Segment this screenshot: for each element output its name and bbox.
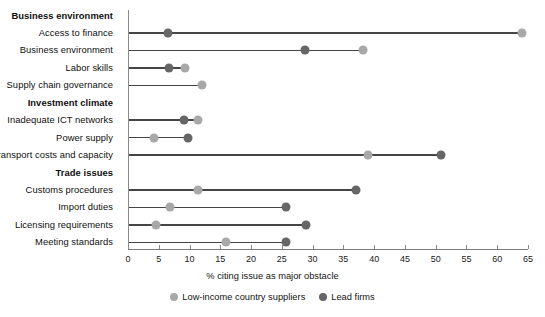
y-axis-line xyxy=(128,10,129,249)
x-axis-tick-label: 0 xyxy=(125,254,130,264)
legend-label-lead-firms: Lead firms xyxy=(331,292,374,302)
x-axis-tick-label: 45 xyxy=(400,254,410,264)
data-point-suppliers xyxy=(193,186,202,195)
x-axis-tick xyxy=(436,245,437,249)
dumbbell-connector xyxy=(128,67,185,69)
data-point-suppliers xyxy=(222,238,231,247)
x-axis-tick xyxy=(282,245,283,249)
x-axis-tick-label: 10 xyxy=(185,254,195,264)
chart-legend: Low-income country suppliers Lead firms xyxy=(0,292,545,302)
data-point-suppliers xyxy=(151,220,160,229)
x-axis-tick-label: 15 xyxy=(215,254,225,264)
x-axis-tick-label: 30 xyxy=(308,254,318,264)
x-axis-tick xyxy=(466,245,467,249)
x-axis-tick xyxy=(374,245,375,249)
x-axis-tick xyxy=(190,245,191,249)
dumbbell-chart: Business environmentAccess to financeBus… xyxy=(0,0,545,317)
x-axis-tick-label: 35 xyxy=(338,254,348,264)
x-axis-tick xyxy=(128,245,129,249)
x-axis-tick xyxy=(220,245,221,249)
legend-dot-icon-suppliers xyxy=(170,293,178,301)
x-axis-title: % citing issue as major obstacle xyxy=(0,271,545,281)
legend-item-suppliers: Low-income country suppliers xyxy=(170,292,305,302)
dumbbell-connector xyxy=(128,85,202,87)
dumbbell-connector xyxy=(128,189,356,191)
data-point-suppliers xyxy=(359,46,368,55)
x-axis-tick xyxy=(343,245,344,249)
plot-area: 05101520253035404550556065 xyxy=(0,0,545,317)
data-point-suppliers xyxy=(149,133,158,142)
data-point-lead-firms xyxy=(351,186,360,195)
data-point-suppliers xyxy=(181,63,190,72)
data-point-lead-firms xyxy=(164,28,173,37)
dumbbell-connector xyxy=(128,242,286,244)
x-axis-tick-label: 25 xyxy=(277,254,287,264)
data-point-suppliers xyxy=(517,28,526,37)
x-axis-tick-label: 40 xyxy=(369,254,379,264)
x-axis-tick-label: 55 xyxy=(461,254,471,264)
x-axis-tick xyxy=(405,245,406,249)
x-axis-tick-label: 50 xyxy=(431,254,441,264)
data-point-suppliers xyxy=(197,81,206,90)
data-point-suppliers xyxy=(165,203,174,212)
data-point-suppliers xyxy=(364,151,373,160)
legend-label-suppliers: Low-income country suppliers xyxy=(182,292,305,302)
dumbbell-connector xyxy=(128,154,441,156)
data-point-lead-firms xyxy=(184,133,193,142)
legend-dot-icon-lead-firms xyxy=(319,293,327,301)
dumbbell-connector xyxy=(128,50,363,52)
x-axis-tick xyxy=(313,245,314,249)
x-axis-tick-label: 20 xyxy=(246,254,256,264)
x-axis-tick-label: 65 xyxy=(523,254,533,264)
x-axis-tick xyxy=(159,245,160,249)
x-axis-tick xyxy=(497,245,498,249)
data-point-lead-firms xyxy=(180,116,189,125)
dumbbell-connector xyxy=(128,207,286,209)
data-point-lead-firms xyxy=(165,63,174,72)
data-point-suppliers xyxy=(194,116,203,125)
legend-item-lead-firms: Lead firms xyxy=(319,292,374,302)
x-axis-tick-label: 5 xyxy=(156,254,161,264)
data-point-lead-firms xyxy=(302,220,311,229)
data-point-lead-firms xyxy=(437,151,446,160)
x-axis-tick xyxy=(528,245,529,249)
x-axis-tick xyxy=(251,245,252,249)
x-axis-line xyxy=(128,249,528,250)
data-point-lead-firms xyxy=(301,46,310,55)
data-point-lead-firms xyxy=(281,203,290,212)
dumbbell-connector xyxy=(128,32,522,34)
x-axis-tick-label: 60 xyxy=(492,254,502,264)
